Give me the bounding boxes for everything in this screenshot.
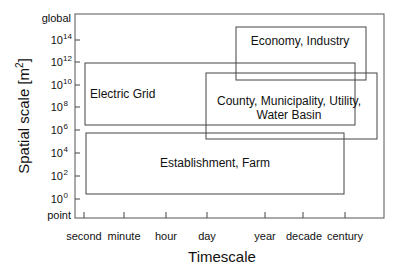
region-label-county-1: County, Municipality, Utility, bbox=[217, 94, 361, 108]
y-exp-10: 10 bbox=[63, 77, 72, 86]
y-label-1e0: 10 bbox=[51, 193, 63, 205]
x-label-hour: hour bbox=[155, 230, 177, 242]
x-label-second: second bbox=[66, 230, 101, 242]
y-label-global: global bbox=[42, 12, 71, 24]
y-label-1e2: 10 bbox=[51, 170, 63, 182]
y-exp-8: 8 bbox=[64, 99, 69, 108]
y-exp-12: 12 bbox=[63, 54, 72, 63]
y-ticks bbox=[75, 40, 80, 199]
x-axis-labels: second minute hour day year decade centu… bbox=[66, 230, 363, 242]
region-label-economy: Economy, Industry bbox=[251, 34, 349, 48]
region-label-electric: Electric Grid bbox=[90, 87, 155, 101]
y-exp-14: 14 bbox=[63, 32, 72, 41]
y-label-point: point bbox=[47, 209, 71, 221]
region-label-establishment: Establishment, Farm bbox=[160, 156, 270, 170]
x-ticks bbox=[84, 212, 345, 218]
y-label-1e10: 10 bbox=[51, 79, 63, 91]
spatial-temporal-scale-diagram: global 10 14 10 12 10 10 10 8 10 6 10 4 … bbox=[0, 0, 398, 275]
svg-text:Spatial scale [m2]: Spatial scale [m2] bbox=[14, 58, 32, 174]
y-label-1e12: 10 bbox=[51, 56, 63, 68]
x-label-year: year bbox=[254, 230, 276, 242]
y-exp-4: 4 bbox=[64, 145, 69, 154]
y-label-1e8: 10 bbox=[51, 101, 63, 113]
y-label-1e6: 10 bbox=[51, 124, 63, 136]
y-label-1e4: 10 bbox=[51, 147, 63, 159]
y-exp-0: 0 bbox=[64, 191, 69, 200]
y-exp-6: 6 bbox=[64, 122, 69, 131]
x-label-minute: minute bbox=[107, 230, 140, 242]
y-axis-title: Spatial scale [m2] bbox=[14, 58, 32, 174]
x-axis-title: Timescale bbox=[188, 248, 256, 265]
y-exp-2: 2 bbox=[64, 168, 69, 177]
x-label-century: century bbox=[327, 230, 364, 242]
x-label-decade: decade bbox=[286, 230, 322, 242]
y-axis-labels: global 10 14 10 12 10 10 10 8 10 6 10 4 … bbox=[42, 12, 73, 221]
x-label-day: day bbox=[198, 230, 216, 242]
y-label-1e14: 10 bbox=[51, 34, 63, 46]
region-label-county-2: Water Basin bbox=[257, 108, 322, 122]
